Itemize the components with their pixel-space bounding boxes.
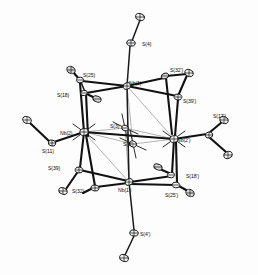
ortep-drawing (0, 0, 258, 275)
ellipsoid-s4-terminal (135, 12, 146, 21)
ellipsoid-s17-prime (205, 131, 214, 139)
ellipsoid-s18-prime (167, 172, 175, 179)
atom-label-s25: S(25) (83, 72, 95, 78)
atom-label-nb1: Nb(1) (129, 80, 142, 86)
atom-label-s25-prime: S(25') (165, 192, 178, 198)
atom-label-s32-prime: S(32') (170, 67, 183, 73)
atom-label-nb2-prime: Nb(2') (177, 137, 190, 143)
atom-label-s39-prime: S(39') (183, 98, 196, 104)
atom-label-nb2: Nb(2) (60, 130, 73, 136)
atom-label-s18-prime: S(18') (186, 173, 199, 179)
ellipsoid-s18-prime-terminal (153, 163, 163, 172)
ellipsoid-s39-prime (174, 93, 183, 100)
atom-label-s3-prime: S(3') (123, 141, 133, 147)
ellipsoid-s4-prime-terminal (119, 253, 130, 262)
atom-label-s39: S(39) (48, 165, 60, 171)
atom-label-s17-prime: S(17') (213, 113, 226, 119)
atom-label-s4: S(4) (142, 41, 151, 47)
ellipsoid-s18-terminal (92, 95, 102, 104)
ellipsoid-s32-prime-terminal (184, 68, 195, 77)
ortep-figure: S(4) S(25) S(32') Nb(1) S(18) S(39') S(1… (0, 0, 258, 275)
ellipsoid-s25-prime (172, 182, 180, 189)
ellipsoid-s4-prime (129, 229, 139, 237)
atom-label-nb1-prime: Nb(1') (118, 187, 131, 193)
atom-label-s11: S(11) (42, 148, 54, 154)
ellipsoid-s4 (126, 39, 136, 47)
atom-label-s4-prime: S(4') (140, 231, 150, 237)
atom-label-s32: S(32) (72, 188, 84, 194)
ellipsoid-s18 (80, 90, 88, 96)
atom-label-s3: S(3) (110, 123, 119, 129)
ellipsoid-s32-prime (160, 72, 169, 80)
atom-label-s18: S(18) (57, 92, 69, 98)
ellipsoid-s32 (91, 184, 100, 191)
ellipsoid-s11 (48, 139, 57, 147)
